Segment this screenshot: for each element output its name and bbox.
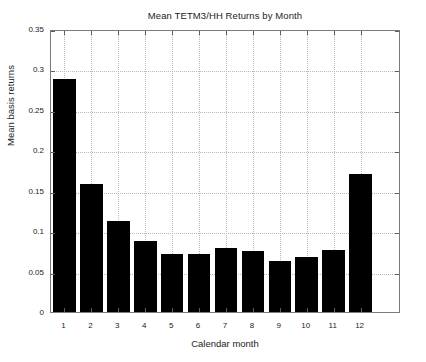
- x-tick-label: 7: [210, 322, 240, 330]
- x-tick-mark: [91, 308, 92, 312]
- x-tick-mark-top: [334, 31, 335, 35]
- bar: [349, 174, 372, 312]
- bar: [188, 254, 211, 312]
- bar: [161, 254, 184, 312]
- bar: [295, 257, 318, 312]
- x-tick-mark: [226, 308, 227, 312]
- x-tick-label: 12: [345, 322, 375, 330]
- x-tick-label: 11: [318, 322, 348, 330]
- x-tick-mark: [307, 308, 308, 312]
- x-tick-mark-top: [226, 31, 227, 35]
- bar: [53, 79, 76, 312]
- y-tick-mark: [51, 31, 55, 32]
- x-tick-label: 4: [129, 322, 159, 330]
- x-tick-mark-top: [280, 31, 281, 35]
- x-tick-label: 10: [291, 322, 321, 330]
- gridline-horizontal: [51, 152, 399, 153]
- x-tick-mark: [118, 308, 119, 312]
- y-tick-mark-right: [395, 31, 399, 32]
- y-tick-mark: [51, 71, 55, 72]
- x-tick-mark-top: [253, 31, 254, 35]
- bar: [322, 250, 345, 312]
- x-tick-mark-top: [172, 31, 173, 35]
- y-axis-title: Mean basis returns: [5, 26, 16, 186]
- x-tick-mark: [361, 308, 362, 312]
- x-tick-mark-top: [307, 31, 308, 35]
- bar: [107, 221, 130, 312]
- y-tick-mark-right: [395, 193, 399, 194]
- y-tick-label: 0.05: [6, 269, 44, 277]
- y-tick-mark: [51, 233, 55, 234]
- x-tick-mark-top: [199, 31, 200, 35]
- bar: [269, 261, 292, 312]
- y-tick-mark: [51, 193, 55, 194]
- x-axis-title: Calendar month: [50, 338, 400, 349]
- y-tick-mark-right: [395, 274, 399, 275]
- bar: [80, 184, 103, 312]
- y-tick-mark-right: [395, 112, 399, 113]
- x-tick-label: 1: [48, 322, 78, 330]
- gridline-horizontal: [51, 112, 399, 113]
- x-tick-mark-top: [118, 31, 119, 35]
- x-tick-label: 2: [75, 322, 105, 330]
- plot-area: [50, 30, 400, 313]
- y-tick-mark: [51, 152, 55, 153]
- x-tick-mark: [280, 308, 281, 312]
- y-tick-mark-right: [395, 233, 399, 234]
- x-tick-mark-top: [361, 31, 362, 35]
- bar: [215, 248, 238, 312]
- x-tick-mark: [172, 308, 173, 312]
- x-tick-mark: [199, 308, 200, 312]
- bar: [242, 251, 265, 312]
- y-tick-label: 0: [6, 309, 44, 317]
- bar: [134, 241, 157, 312]
- gridline-horizontal: [51, 71, 399, 72]
- x-tick-label: 3: [102, 322, 132, 330]
- gridline-horizontal: [51, 233, 399, 234]
- x-tick-label: 8: [237, 322, 267, 330]
- x-tick-mark-top: [64, 31, 65, 35]
- y-tick-mark-right: [395, 152, 399, 153]
- x-tick-label: 5: [156, 322, 186, 330]
- x-tick-mark-top: [145, 31, 146, 35]
- y-tick-label: 0.1: [6, 228, 44, 236]
- gridline-horizontal: [51, 193, 399, 194]
- x-tick-mark: [253, 308, 254, 312]
- x-tick-mark: [145, 308, 146, 312]
- chart-title: Mean TETM3/HH Returns by Month: [50, 10, 400, 22]
- y-tick-mark-right: [395, 71, 399, 72]
- x-tick-label: 9: [264, 322, 294, 330]
- chart-figure: Mean TETM3/HH Returns by Month 00.050.10…: [0, 0, 426, 362]
- x-tick-label: 6: [183, 322, 213, 330]
- y-tick-mark: [51, 274, 55, 275]
- y-tick-label: 0.15: [6, 188, 44, 196]
- x-tick-mark-top: [91, 31, 92, 35]
- y-tick-mark: [51, 112, 55, 113]
- x-tick-mark: [64, 308, 65, 312]
- x-tick-mark: [334, 308, 335, 312]
